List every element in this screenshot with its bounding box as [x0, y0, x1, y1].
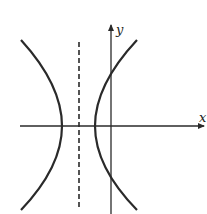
right-branch-curve	[95, 40, 137, 210]
left-branch-curve	[21, 40, 62, 210]
hyperbola-diagram: y x	[0, 0, 207, 214]
x-axis-label: x	[199, 110, 207, 125]
y-axis-label: y	[115, 22, 124, 37]
